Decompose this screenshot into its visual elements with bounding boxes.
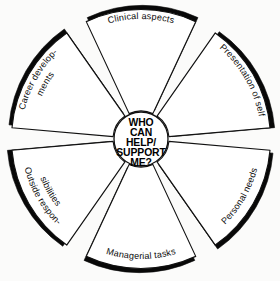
radial-wheel-diagram: WHO CAN HELP/ SUPPORT ME? Clinical aspec…: [0, 0, 280, 281]
hub-line-5: ME?: [130, 157, 152, 168]
wheel-svg: WHO CAN HELP/ SUPPORT ME? Clinical aspec…: [0, 0, 280, 281]
